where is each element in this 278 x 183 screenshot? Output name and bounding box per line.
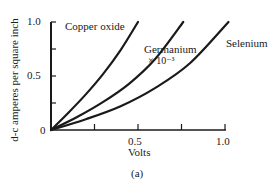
y-tick-label-0.5: 0.5 [27,70,41,81]
series-label-germanium: Germanium [144,44,197,55]
series-label-selenium: Selenium [226,38,268,49]
x-tick-label-1.0: 1.0 [216,136,230,147]
origin-label: 0 [40,125,46,136]
series-label-copper-oxide: Copper oxide [65,21,125,32]
figure-caption: (a) [131,168,143,179]
x-axis-label: Volts [128,147,150,158]
curve-copper-oxide [51,22,138,130]
y-tick-label-1.0: 1.0 [27,16,41,27]
series-label-germanium-scale: × 10⁻³ [148,55,174,66]
curve-germanium [51,22,183,130]
y-axis-label: d-c amperes per square inch [8,18,20,141]
